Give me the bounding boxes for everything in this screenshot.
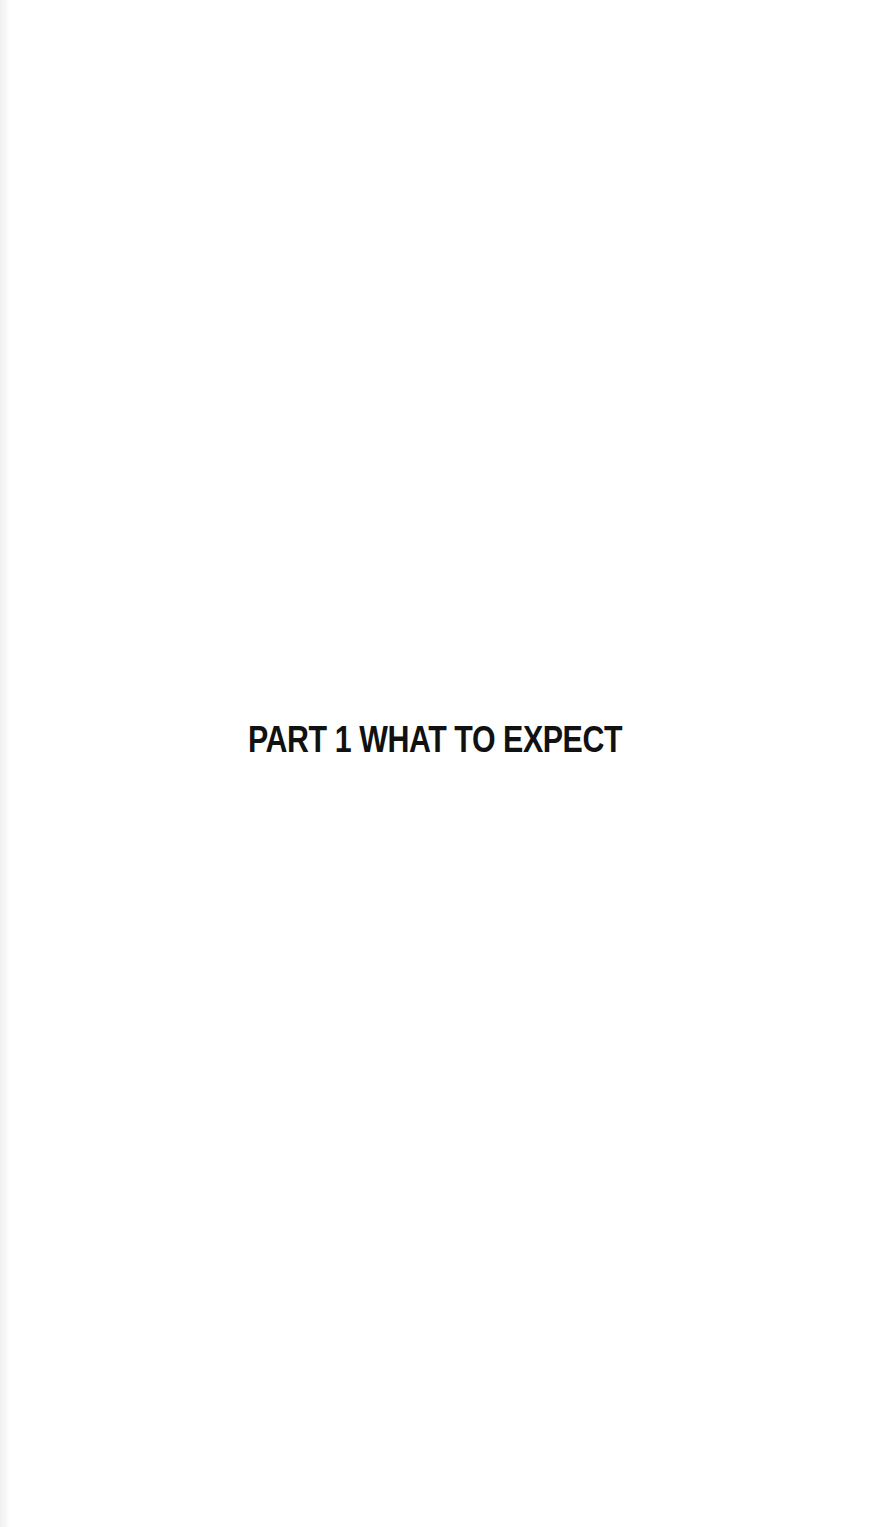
scan-edge-shadow [0, 0, 10, 1527]
part-heading: PART 1 WHAT TO EXPECT [248, 719, 560, 761]
document-page: PART 1 WHAT TO EXPECT [0, 0, 874, 1527]
